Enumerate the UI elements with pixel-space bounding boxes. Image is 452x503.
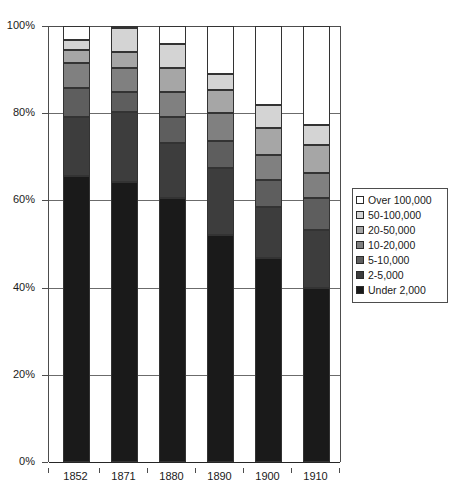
legend-item-10-20000[interactable]: 10-20,000 — [356, 238, 443, 252]
legend-item-label: 50-100,000 — [368, 210, 421, 221]
bar-segment-1880-20-50000[interactable] — [159, 68, 186, 92]
plot-area — [48, 26, 341, 462]
y-tick-label-80: 80% — [13, 107, 35, 118]
y-tick-label-100: 100% — [7, 20, 35, 31]
x-tick-mark-0 — [99, 468, 100, 473]
bar-segment-1852-50-100000[interactable] — [63, 40, 90, 50]
x-tick-label-1910: 1910 — [303, 470, 327, 482]
gridline-60 — [49, 200, 340, 201]
bar-segment-1910-Under2000[interactable] — [303, 288, 330, 462]
gridline-40 — [49, 288, 340, 289]
bar-1852[interactable] — [63, 26, 90, 462]
bar-segment-1880-Under2000[interactable] — [159, 198, 186, 462]
x-tick-label-1890: 1890 — [207, 470, 231, 482]
y-tick-label-60: 60% — [13, 194, 35, 205]
bar-segment-1871-20-50000[interactable] — [111, 52, 138, 68]
bar-1910[interactable] — [303, 26, 330, 462]
legend-swatch-icon — [356, 241, 364, 249]
y-tick-label-40: 40% — [13, 282, 35, 293]
legend-item-50-100000[interactable]: 50-100,000 — [356, 208, 443, 222]
legend-item-label: 20-50,000 — [368, 225, 415, 236]
x-tick-mark-4 — [291, 468, 292, 473]
bar-segment-1880-2-5000[interactable] — [159, 143, 186, 198]
legend-item-Under2000[interactable]: Under 2,000 — [356, 283, 443, 297]
bar-segment-1900-20-50000[interactable] — [255, 128, 282, 155]
legend-swatch-icon — [356, 286, 364, 294]
bar-1900[interactable] — [255, 26, 282, 462]
bar-segment-1871-10-20000[interactable] — [111, 68, 138, 92]
x-tick-label-1900: 1900 — [255, 470, 279, 482]
x-tick-label-1852: 1852 — [63, 470, 87, 482]
legend-item-2-5000[interactable]: 2-5,000 — [356, 268, 443, 282]
bar-segment-1852-2-5000[interactable] — [63, 117, 90, 176]
stacked-column-chart: 0%20%40%60%80%100% 185218711880189019001… — [0, 0, 452, 503]
gridline-0 — [49, 462, 340, 463]
bar-segment-1880-5-10000[interactable] — [159, 117, 186, 143]
bar-segment-1900-50-100000[interactable] — [255, 105, 282, 128]
bar-segment-1871-Under2000[interactable] — [111, 182, 138, 462]
bar-segment-1890-Under2000[interactable] — [207, 235, 234, 462]
bar-1871[interactable] — [111, 26, 138, 462]
bar-1880[interactable] — [159, 26, 186, 462]
bar-segment-1852-5-10000[interactable] — [63, 88, 90, 117]
bar-segment-1910-50-100000[interactable] — [303, 125, 330, 145]
bar-segment-1871-2-5000[interactable] — [111, 112, 138, 182]
bar-segment-1871-5-10000[interactable] — [111, 92, 138, 112]
legend-swatch-icon — [356, 211, 364, 219]
legend-item-20-50000[interactable]: 20-50,000 — [356, 223, 443, 237]
bar-segment-1890-50-100000[interactable] — [207, 74, 234, 90]
bar-segment-1871-50-100000[interactable] — [111, 28, 138, 52]
bar-segment-1890-20-50000[interactable] — [207, 90, 234, 113]
legend-swatch-icon — [356, 271, 364, 279]
legend-item-label: Under 2,000 — [368, 285, 426, 296]
bar-segment-1880-Over100000[interactable] — [159, 26, 186, 44]
bar-segment-1900-5-10000[interactable] — [255, 180, 282, 207]
bar-segment-1852-10-20000[interactable] — [63, 63, 90, 88]
bar-segment-1910-10-20000[interactable] — [303, 173, 330, 198]
bar-segment-1852-Over100000[interactable] — [63, 26, 90, 40]
bar-segment-1890-5-10000[interactable] — [207, 141, 234, 168]
legend-item-5-10000[interactable]: 5-10,000 — [356, 253, 443, 267]
gridline-100 — [49, 26, 340, 27]
legend-item-label: 2-5,000 — [368, 270, 404, 281]
x-tick-mark-2 — [195, 468, 196, 473]
bar-segment-1910-2-5000[interactable] — [303, 230, 330, 288]
x-tick-mark-1 — [147, 468, 148, 473]
legend-item-label: 10-20,000 — [368, 240, 415, 251]
x-tick-mark-5 — [339, 468, 340, 473]
bar-segment-1880-50-100000[interactable] — [159, 44, 186, 68]
bar-segment-1900-Over100000[interactable] — [255, 26, 282, 105]
y-tick-label-20: 20% — [13, 369, 35, 380]
x-axis: 185218711880189019001910 — [48, 468, 341, 488]
bar-segment-1900-Under2000[interactable] — [255, 258, 282, 462]
bar-segment-1910-5-10000[interactable] — [303, 198, 330, 230]
gridline-80 — [49, 113, 340, 114]
bar-segment-1890-10-20000[interactable] — [207, 113, 234, 141]
x-tick-label-1871: 1871 — [111, 470, 135, 482]
y-axis: 0%20%40%60%80%100% — [0, 0, 44, 503]
x-tick-label-1880: 1880 — [159, 470, 183, 482]
x-tick-mark-3 — [243, 468, 244, 473]
bar-segment-1852-20-50000[interactable] — [63, 50, 90, 63]
legend-item-label: 5-10,000 — [368, 255, 409, 266]
legend-swatch-icon — [356, 226, 364, 234]
legend-item-Over100000[interactable]: Over 100,000 — [356, 193, 443, 207]
legend-item-label: Over 100,000 — [368, 195, 432, 206]
bar-segment-1910-20-50000[interactable] — [303, 145, 330, 173]
bar-segment-1910-Over100000[interactable] — [303, 26, 330, 125]
bar-1890[interactable] — [207, 26, 234, 462]
legend-swatch-icon — [356, 256, 364, 264]
y-tick-label-0: 0% — [19, 456, 35, 467]
bar-segment-1890-Over100000[interactable] — [207, 26, 234, 74]
bar-segment-1900-2-5000[interactable] — [255, 207, 282, 258]
chart-legend: Over 100,00050-100,00020-50,00010-20,000… — [352, 188, 448, 303]
bar-segment-1852-Under2000[interactable] — [63, 176, 90, 462]
bar-segment-1890-2-5000[interactable] — [207, 168, 234, 235]
x-tick-mark-origin — [48, 468, 49, 473]
y-tick-mark-0 — [42, 462, 48, 463]
gridline-20 — [49, 375, 340, 376]
bar-segment-1900-10-20000[interactable] — [255, 155, 282, 180]
bar-segment-1871-Over100000[interactable] — [111, 26, 138, 28]
bar-segment-1880-10-20000[interactable] — [159, 92, 186, 117]
legend-swatch-icon — [356, 196, 364, 204]
